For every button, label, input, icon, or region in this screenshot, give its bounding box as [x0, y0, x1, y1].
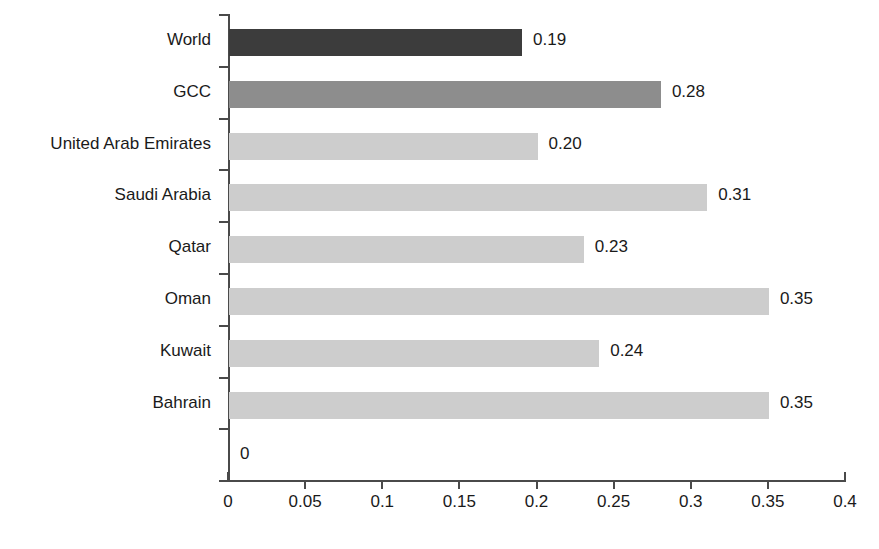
category-label: Oman: [0, 273, 211, 324]
x-axis-tick: [690, 480, 692, 489]
category-label: United Arab Emirates: [0, 118, 211, 169]
x-axis-tick-label: 0: [223, 492, 232, 512]
category-label: Kuwait: [0, 325, 211, 376]
bar-value-label: 0.31: [718, 169, 751, 220]
bar-row: GCC0.28: [0, 66, 879, 117]
x-axis-tick: [381, 480, 383, 489]
bar-row: Kuwait0.24: [0, 325, 879, 376]
x-axis-tick: [536, 480, 538, 489]
category-label: Bahrain: [0, 377, 211, 428]
x-axis-tick-label: 0.05: [289, 492, 322, 512]
x-axis-tick-label: 0.3: [679, 492, 703, 512]
bar-value-label: 0.28: [672, 66, 705, 117]
x-axis-tick-label: 0.2: [525, 492, 549, 512]
bar-row: 0: [0, 428, 879, 479]
bar-value-label: 0.19: [533, 14, 566, 65]
category-label: Saudi Arabia: [0, 169, 211, 220]
bar-row: United Arab Emirates0.20: [0, 118, 879, 169]
bar-row: Oman0.35: [0, 273, 879, 324]
x-axis-tick: [767, 480, 769, 489]
bar-value-label: 0.35: [780, 377, 813, 428]
category-label: GCC: [0, 66, 211, 117]
category-label: Qatar: [0, 221, 211, 272]
bar-row: Bahrain0.35: [0, 377, 879, 428]
bar-value-label: 0.35: [780, 273, 813, 324]
bar-value-label: 0.23: [595, 221, 628, 272]
bar: [229, 184, 707, 211]
bar-row: World0.19: [0, 14, 879, 65]
x-axis-tick: [304, 480, 306, 489]
bar-row: Saudi Arabia0.31: [0, 169, 879, 220]
bar: [229, 288, 769, 315]
x-axis-tick-label: 0.15: [443, 492, 476, 512]
x-axis-tick-label: 0.1: [370, 492, 394, 512]
x-axis-tick-label: 0.4: [833, 492, 857, 512]
x-axis-tick-label: 0.35: [751, 492, 784, 512]
category-label: World: [0, 14, 211, 65]
bar: [229, 392, 769, 419]
bar-row: Qatar0.23: [0, 221, 879, 272]
bar-value-label: 0.24: [610, 325, 643, 376]
bar: [229, 340, 599, 367]
bar-chart: World0.19GCC0.28United Arab Emirates0.20…: [0, 0, 879, 549]
bar: [229, 81, 661, 108]
bar: [229, 133, 538, 160]
bar-value-label: 0.20: [549, 118, 582, 169]
x-axis-tick: [613, 480, 615, 489]
bar-value-label: 0: [240, 428, 249, 479]
x-axis-tick: [458, 480, 460, 489]
bar: [229, 29, 522, 56]
x-axis-tick-label: 0.25: [597, 492, 630, 512]
bar: [229, 236, 584, 263]
